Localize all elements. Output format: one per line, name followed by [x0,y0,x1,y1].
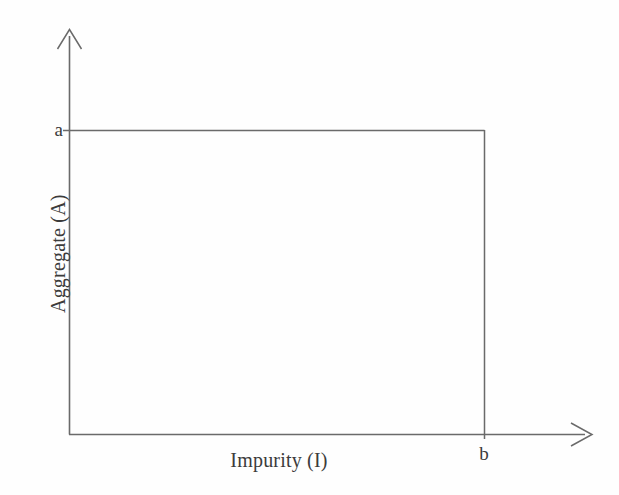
data-trace-group [63,130,485,439]
x-axis-tick-label-b: b [477,444,491,463]
y-axis-tick-label-a: a [49,120,63,139]
x-axis-title: Impurity (I) [194,450,364,470]
x-axis-group [69,423,592,446]
figure-container: Aggregate (A) Impurity (I) a b [0,0,619,495]
plot-canvas [0,0,619,495]
y-axis-title: Aggregate (A) [48,194,68,313]
